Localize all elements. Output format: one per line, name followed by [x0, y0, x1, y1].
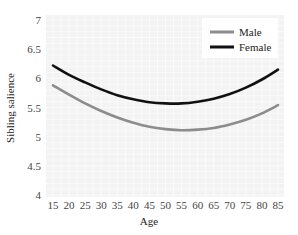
y-tick-label: 4 [36, 189, 42, 201]
x-axis-label: Age [140, 215, 158, 227]
y-tick-label: 6.5 [27, 43, 41, 55]
y-tick-label: 4.5 [27, 160, 41, 172]
y-tick-label: 5 [36, 131, 42, 143]
legend-label-female: Female [239, 41, 271, 53]
x-axis-ticks: 152025303540455055606570758085 [48, 199, 285, 211]
x-tick-label: 80 [256, 199, 268, 211]
y-tick-label: 5.5 [27, 102, 41, 114]
x-tick-label: 15 [48, 199, 60, 211]
x-tick-label: 35 [112, 199, 124, 211]
y-tick-label: 6 [36, 72, 42, 84]
x-tick-label: 60 [192, 199, 204, 211]
y-axis-ticks: 44.555.566.57 [27, 14, 41, 201]
legend-label-male: Male [239, 26, 262, 38]
x-tick-label: 50 [160, 199, 172, 211]
x-tick-label: 20 [64, 199, 76, 211]
x-tick-label: 30 [96, 199, 108, 211]
y-axis-label: Sibling salience [4, 73, 16, 143]
y-tick-label: 7 [36, 14, 42, 26]
x-tick-label: 55 [176, 199, 188, 211]
line-chart: 44.555.566.57 15202530354045505560657075… [0, 0, 298, 235]
x-tick-label: 25 [80, 199, 92, 211]
legend: Male Female [202, 18, 278, 58]
x-tick-label: 65 [208, 199, 220, 211]
x-tick-label: 85 [273, 199, 285, 211]
x-tick-label: 45 [144, 199, 156, 211]
x-tick-label: 75 [240, 199, 252, 211]
x-tick-label: 70 [224, 199, 236, 211]
x-tick-label: 40 [128, 199, 140, 211]
